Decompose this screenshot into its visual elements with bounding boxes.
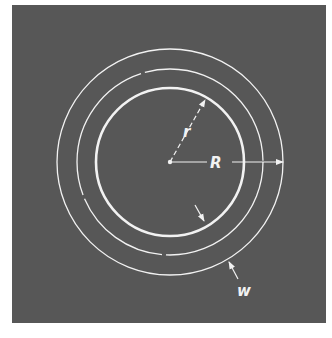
annulus-diagram: r R w	[0, 0, 332, 338]
R-label: R	[210, 154, 222, 172]
w-label: w	[237, 282, 251, 300]
